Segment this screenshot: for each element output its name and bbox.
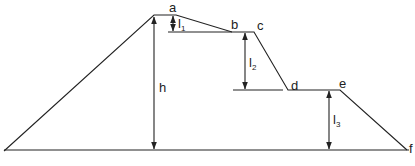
profile-diagram: a b c d e f h l1 l2 l3 <box>0 0 415 166</box>
dimension-label-l2: l2 <box>249 55 257 72</box>
point-label-e: e <box>339 76 346 91</box>
point-label-b: b <box>231 17 238 32</box>
dimension-label-h: h <box>159 80 166 95</box>
point-label-d: d <box>291 78 298 93</box>
profile-outline <box>4 15 407 151</box>
dimension-label-l3: l3 <box>333 112 341 129</box>
point-label-c: c <box>257 18 264 33</box>
point-label-a: a <box>169 0 177 15</box>
dimension-label-l1: l1 <box>178 16 186 33</box>
point-label-f: f <box>409 141 413 156</box>
